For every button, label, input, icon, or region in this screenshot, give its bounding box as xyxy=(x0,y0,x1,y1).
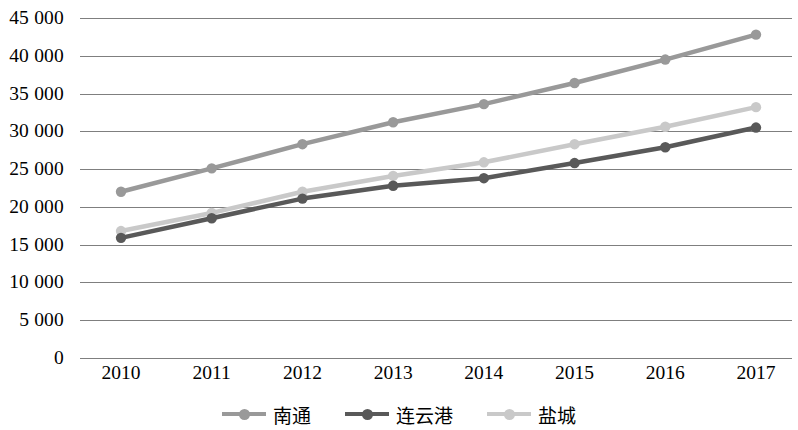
x-tick-label: 2013 xyxy=(374,362,413,384)
data-point xyxy=(569,78,579,88)
data-point xyxy=(569,139,579,149)
y-tick-label: 45 000 xyxy=(9,7,64,29)
x-axis: 20102011201220132014201520162017 xyxy=(0,362,798,392)
series-0 xyxy=(116,29,761,197)
x-tick-label: 2014 xyxy=(464,362,503,384)
data-point xyxy=(207,213,217,223)
line-marker-icon xyxy=(345,406,389,422)
data-point xyxy=(207,163,217,173)
series-line xyxy=(121,128,756,238)
gridline xyxy=(80,358,792,359)
data-point xyxy=(116,187,126,197)
x-tick-label: 2011 xyxy=(193,362,231,384)
legend-label: 盐城 xyxy=(538,401,576,428)
x-tick-label: 2010 xyxy=(102,362,141,384)
x-tick-label: 2017 xyxy=(737,362,776,384)
x-tick-label: 2016 xyxy=(646,362,685,384)
line-marker-icon xyxy=(487,406,531,422)
data-point xyxy=(388,171,398,181)
x-tick-label: 2012 xyxy=(283,362,322,384)
legend-dot xyxy=(239,409,250,420)
data-point xyxy=(660,142,670,152)
data-point xyxy=(660,122,670,132)
legend-dot xyxy=(362,409,373,420)
y-tick-label: 40 000 xyxy=(9,45,64,67)
y-tick-label: 35 000 xyxy=(9,83,64,105)
data-point xyxy=(479,99,489,109)
data-point xyxy=(479,173,489,183)
legend-label: 连云港 xyxy=(396,401,453,428)
legend-dot xyxy=(504,409,515,420)
y-tick-label: 30 000 xyxy=(9,120,64,142)
data-point xyxy=(388,181,398,191)
data-point xyxy=(297,193,307,203)
data-point xyxy=(751,102,761,112)
chart-legend: 南通连云港盐城 xyxy=(0,398,798,430)
data-point xyxy=(388,117,398,127)
legend-item[interactable]: 连云港 xyxy=(345,401,453,428)
legend-item[interactable]: 南通 xyxy=(222,401,311,428)
series-1 xyxy=(116,122,761,243)
y-tick-label: 15 000 xyxy=(9,234,64,256)
data-point xyxy=(569,158,579,168)
data-point xyxy=(297,139,307,149)
data-point xyxy=(660,54,670,64)
data-point xyxy=(116,233,126,243)
y-tick-label: 5 000 xyxy=(19,309,64,331)
y-tick-label: 20 000 xyxy=(9,196,64,218)
data-point xyxy=(751,29,761,39)
data-point xyxy=(479,157,489,167)
y-tick-label: 25 000 xyxy=(9,158,64,180)
x-tick-label: 2015 xyxy=(555,362,594,384)
data-point xyxy=(751,122,761,132)
legend-item[interactable]: 盐城 xyxy=(487,401,576,428)
y-tick-label: 10 000 xyxy=(9,271,64,293)
plot-area xyxy=(80,18,792,358)
series-layer xyxy=(80,18,792,358)
line-marker-icon xyxy=(222,406,266,422)
legend-label: 南通 xyxy=(273,401,311,428)
line-chart: 45 00040 00035 00030 00025 00020 00015 0… xyxy=(0,0,798,430)
